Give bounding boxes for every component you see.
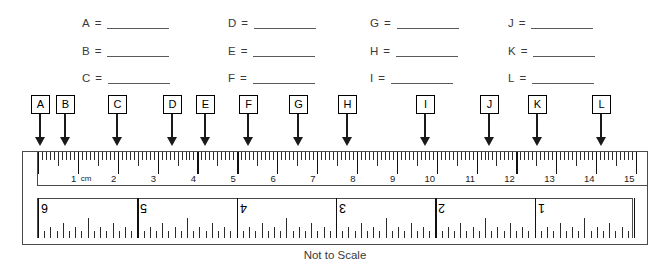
imperial-fraction-tick	[324, 227, 325, 238]
metric-mm-tick	[373, 152, 374, 160]
imperial-fraction-tick	[57, 231, 58, 238]
answer-blank-l[interactable]	[532, 83, 594, 84]
metric-mm-tick	[632, 152, 633, 160]
metric-mm-tick	[126, 152, 127, 160]
arrow-stem-f	[247, 114, 249, 137]
answer-letter: E	[228, 46, 236, 58]
imperial-fraction-tick	[361, 223, 362, 238]
metric-mm-tick	[174, 152, 175, 160]
answer-blank-j[interactable]	[531, 28, 593, 29]
metric-half-tick	[417, 152, 418, 166]
label-box-c[interactable]: C	[108, 95, 127, 114]
metric-mm-tick	[305, 152, 306, 160]
imperial-fraction-tick	[168, 231, 169, 238]
label-box-d[interactable]: D	[163, 95, 182, 114]
imperial-fraction-tick	[280, 231, 281, 238]
metric-mm-tick	[604, 152, 605, 160]
imperial-fraction-tick	[311, 223, 312, 238]
answer-blank-b[interactable]	[107, 56, 169, 57]
imperial-fraction-tick	[230, 231, 231, 238]
imperial-fraction-tick	[181, 231, 182, 238]
answer-item-l: L=	[508, 73, 594, 85]
metric-mm-tick	[584, 152, 585, 160]
metric-mm-tick	[130, 152, 131, 160]
metric-mm-tick	[445, 152, 446, 160]
metric-cm-tick	[596, 152, 597, 174]
label-box-h[interactable]: H	[338, 95, 357, 114]
imperial-number: 6	[41, 201, 48, 214]
imperial-fraction-tick	[144, 231, 145, 238]
imperial-fraction-tick	[100, 227, 101, 238]
metric-half-tick	[138, 152, 139, 166]
imperial-fraction-tick	[44, 231, 45, 238]
metric-mm-tick	[560, 152, 561, 160]
arrow-head-j	[484, 137, 494, 146]
metric-mm-tick	[182, 152, 183, 160]
imperial-number: 1	[538, 201, 545, 214]
answer-blank-k[interactable]	[533, 56, 595, 57]
answer-blank-g[interactable]	[397, 28, 459, 29]
answer-blank-f[interactable]	[253, 83, 315, 84]
label-box-i[interactable]: I	[416, 95, 435, 114]
imperial-inch-tick	[336, 198, 337, 238]
imperial-fraction-tick	[81, 231, 82, 238]
metric-mm-tick	[193, 152, 194, 160]
metric-mm-tick	[94, 152, 95, 160]
answer-item-f: F=	[228, 73, 315, 85]
pointer-labels-row: ABCDEFGHIJKL	[0, 95, 670, 152]
answer-item-j: J=	[508, 18, 593, 30]
arrow-stem-j	[488, 114, 490, 137]
arrow-stem-d	[171, 114, 173, 137]
equals-sign: =	[95, 46, 102, 58]
answer-letter: B	[82, 46, 90, 58]
answer-blank-i[interactable]	[391, 83, 453, 84]
equals-sign: =	[383, 46, 390, 58]
metric-mm-tick	[488, 152, 489, 160]
metric-number: 11	[465, 174, 476, 184]
imperial-fraction-tick	[131, 231, 132, 238]
metric-cm-tick	[118, 152, 119, 174]
label-box-e[interactable]: E	[196, 95, 215, 114]
metric-mm-tick	[293, 152, 294, 160]
imperial-fraction-tick	[560, 223, 561, 238]
metric-mm-tick	[261, 152, 262, 160]
arrow-stem-k	[536, 114, 538, 137]
imperial-fraction-tick	[541, 231, 542, 238]
imperial-fraction-tick	[299, 227, 300, 238]
answer-blank-a[interactable]	[107, 28, 169, 29]
metric-number: 12	[504, 174, 516, 184]
metric-mm-tick	[281, 152, 282, 160]
imperial-number: 5	[140, 201, 147, 214]
arrow-head-i	[420, 137, 430, 146]
metric-mm-tick	[532, 152, 533, 160]
imperial-fraction-tick	[597, 227, 598, 238]
metric-half-tick	[496, 152, 497, 166]
label-box-f[interactable]: F	[239, 95, 258, 114]
metric-mm-tick	[492, 152, 493, 160]
equals-sign: =	[95, 18, 102, 30]
answer-blank-h[interactable]	[396, 56, 458, 57]
metric-mm-tick	[329, 152, 330, 160]
label-box-l[interactable]: L	[592, 95, 611, 114]
label-box-g[interactable]: G	[289, 95, 308, 114]
imperial-fraction-tick	[522, 227, 523, 238]
imperial-scale: 654321	[37, 198, 633, 238]
metric-number: 8	[350, 174, 357, 184]
metric-mm-tick	[341, 152, 342, 160]
metric-half-tick	[337, 152, 338, 166]
imperial-fraction-tick	[162, 223, 163, 238]
arrow-head-k	[532, 137, 542, 146]
metric-mm-tick	[361, 152, 362, 160]
answer-blank-e[interactable]	[253, 56, 315, 57]
imperial-fraction-tick	[249, 227, 250, 238]
label-box-j[interactable]: J	[480, 95, 499, 114]
metric-half-tick	[616, 152, 617, 166]
answer-blank-c[interactable]	[108, 83, 170, 84]
metric-mm-tick	[201, 152, 202, 160]
label-box-k[interactable]: K	[528, 95, 547, 114]
label-box-b[interactable]: B	[56, 95, 75, 114]
label-box-a[interactable]: A	[31, 95, 50, 114]
equals-sign: =	[240, 73, 247, 85]
answer-blank-d[interactable]	[254, 28, 316, 29]
imperial-fraction-tick	[355, 231, 356, 238]
